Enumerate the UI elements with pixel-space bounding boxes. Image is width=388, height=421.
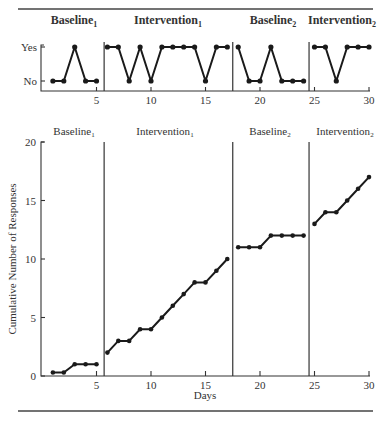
single-case-design-figure: Baseline1Intervention1Baseline2Intervent… — [0, 0, 388, 421]
data-point — [72, 44, 77, 49]
data-point — [138, 44, 143, 49]
data-point — [116, 44, 121, 49]
data-point — [181, 44, 186, 49]
data-point — [334, 78, 339, 83]
phase-label: Baseline1 — [51, 13, 98, 29]
data-point — [366, 44, 371, 49]
top-xtick-label: 10 — [146, 94, 158, 106]
phase-label: Intervention2 — [308, 13, 376, 29]
data-point — [247, 245, 252, 250]
bottom-x-axis-label: Days — [194, 389, 217, 401]
bottom-phase-change-lines — [104, 142, 309, 376]
bottom-axes — [41, 142, 370, 376]
data-point — [105, 350, 110, 355]
data-point — [62, 370, 67, 375]
data-point — [312, 222, 317, 227]
bottom-y-axis-label: Cumulative Number of Responses — [6, 183, 18, 334]
data-point — [170, 44, 175, 49]
data-point — [323, 44, 328, 49]
top-data-series — [50, 44, 371, 83]
top-axes — [41, 45, 370, 91]
data-point — [203, 78, 208, 83]
series-line — [107, 47, 227, 81]
bottom-xtick-label: 30 — [364, 379, 376, 391]
series-line — [107, 259, 227, 353]
bottom-ytick-label: 5 — [31, 312, 37, 324]
data-point — [345, 198, 350, 203]
data-point — [127, 78, 132, 83]
data-point — [236, 44, 241, 49]
top-chart-yes-no: Baseline1Intervention1Baseline2Intervent… — [21, 13, 376, 106]
data-point — [301, 233, 306, 238]
data-point — [94, 362, 99, 367]
bottom-ytick-label: 15 — [25, 195, 37, 207]
phase-label: Intervention1 — [136, 125, 194, 139]
series-line — [53, 47, 97, 81]
data-point — [290, 233, 295, 238]
data-point — [127, 339, 132, 344]
data-point — [312, 44, 317, 49]
data-point — [301, 78, 306, 83]
bottom-ytick-label: 0 — [31, 370, 37, 382]
bottom-xtick-label: 25 — [309, 379, 321, 391]
data-point — [72, 362, 77, 367]
top-xtick-label: 5 — [94, 94, 100, 106]
data-point — [225, 44, 230, 49]
data-point — [171, 304, 176, 309]
bottom-chart-cumulative: Baseline1Intervention1Baseline2Intervent… — [6, 125, 375, 401]
data-point — [203, 280, 208, 285]
data-point — [280, 233, 285, 238]
data-point — [181, 292, 186, 297]
top-xtick-label: 30 — [364, 94, 376, 106]
data-point — [269, 233, 274, 238]
phase-label: Baseline2 — [250, 13, 297, 29]
phase-label: Baseline1 — [53, 125, 95, 139]
series-line — [315, 47, 370, 81]
data-point — [225, 257, 230, 262]
data-point — [149, 327, 154, 332]
phase-label: Intervention1 — [134, 13, 202, 29]
data-point — [356, 44, 361, 49]
data-point — [192, 44, 197, 49]
bottom-xtick-label: 20 — [255, 379, 267, 391]
data-point — [83, 362, 88, 367]
data-point — [61, 78, 66, 83]
data-point — [116, 339, 121, 344]
top-xtick-label: 25 — [309, 94, 321, 106]
bottom-ytick-label: 20 — [25, 136, 37, 148]
bottom-data-series — [51, 175, 372, 375]
data-point — [323, 210, 328, 215]
data-point — [258, 245, 263, 250]
data-point — [105, 44, 110, 49]
data-point — [247, 78, 252, 83]
phase-label: Baseline2 — [249, 125, 291, 139]
bottom-phase-labels: Baseline1Intervention1Baseline2Intervent… — [53, 125, 374, 139]
data-point — [290, 78, 295, 83]
data-point — [138, 327, 143, 332]
bottom-x-ticks: 51015202530 — [94, 371, 375, 391]
phase-label: Intervention2 — [316, 125, 374, 139]
top-xtick-label: 15 — [200, 94, 212, 106]
data-point — [94, 78, 99, 83]
bottom-xtick-label: 10 — [146, 379, 158, 391]
data-point — [345, 44, 350, 49]
top-phase-labels: Baseline1Intervention1Baseline2Intervent… — [51, 13, 376, 29]
data-point — [148, 78, 153, 83]
data-point — [334, 210, 339, 215]
data-point — [257, 78, 262, 83]
top-x-ticks: 51015202530 — [94, 87, 375, 106]
data-point — [192, 280, 197, 285]
bottom-y-ticks: 05101520 — [25, 136, 45, 382]
data-point — [279, 78, 284, 83]
data-point — [160, 315, 165, 320]
data-point — [159, 44, 164, 49]
top-ylabel-no: No — [24, 75, 38, 87]
data-point — [367, 175, 372, 180]
data-point — [83, 78, 88, 83]
top-xtick-label: 20 — [255, 94, 267, 106]
data-point — [51, 370, 56, 375]
series-line — [315, 177, 370, 224]
data-point — [268, 44, 273, 49]
top-ylabel-yes: Yes — [21, 41, 37, 53]
data-point — [50, 78, 55, 83]
